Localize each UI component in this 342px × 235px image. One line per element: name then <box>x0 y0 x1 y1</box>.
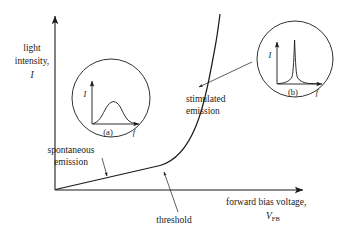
x-axis-label-line1: forward bias voltage, <box>226 197 306 207</box>
x-axis-label-subscript: FB <box>272 215 281 222</box>
threshold-label: threshold <box>156 215 192 225</box>
stimulated-emission-leader <box>199 62 252 87</box>
inset-b: I f (b) <box>257 21 333 97</box>
spontaneous-emission-label-line2: emission <box>54 157 88 167</box>
inset-a: I f (a) <box>72 59 150 137</box>
annotation-stimulated-emission: stimulated emission <box>186 62 252 116</box>
stimulated-emission-label-line1: stimulated <box>186 94 226 104</box>
threshold-leader <box>164 172 178 212</box>
x-axis-label: forward bias voltage, VFB <box>226 197 306 222</box>
y-axis-label-line2: intensity, <box>15 56 49 66</box>
inset-b-y-axis-label: I <box>268 50 273 60</box>
inset-a-x-axis-label: f <box>133 127 137 137</box>
inset-a-tag: (a) <box>103 127 113 137</box>
x-axis-label-symbol-group: VFB <box>266 211 280 222</box>
curve-stimulated-segment <box>160 14 220 166</box>
annotation-spontaneous-emission: spontaneous emission <box>48 145 107 176</box>
stimulated-emission-label-line2: emission <box>186 106 220 116</box>
y-axis-label-symbol: I <box>29 70 34 80</box>
inset-b-spectrum-curve <box>278 40 319 84</box>
annotation-threshold: threshold <box>156 172 192 225</box>
spontaneous-emission-label-line1: spontaneous <box>48 145 95 155</box>
inset-a-y-axis-label: I <box>83 89 88 99</box>
inset-b-tag: (b) <box>288 87 298 97</box>
inset-a-spectrum-curve <box>93 102 136 124</box>
spontaneous-emission-leader <box>102 158 107 176</box>
figure-canvas: light intensity, I forward bias voltage,… <box>0 0 342 235</box>
y-axis-label: light intensity, I <box>15 43 49 80</box>
curve-spontaneous-segment <box>56 166 161 190</box>
y-axis-label-line1: light <box>23 43 41 53</box>
